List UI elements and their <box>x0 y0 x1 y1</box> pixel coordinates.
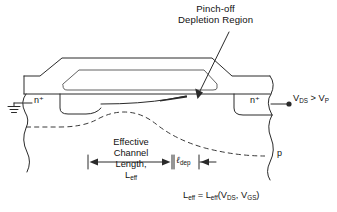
drain-bias-sub-p: P <box>325 97 329 104</box>
eq-rhs-sub2: GS <box>247 194 256 201</box>
eq-rhs-open: (V <box>218 190 227 200</box>
drain-bias-relation: > V <box>308 93 325 103</box>
drain-bias-sub-ds: DS <box>299 97 308 104</box>
eq-lhs-sub: eff <box>188 194 195 201</box>
gate-outer-outline <box>24 58 270 76</box>
depletion-length-label: ℓdep <box>176 155 190 166</box>
effective-label-line1: Effective <box>93 137 169 148</box>
substrate-region-label: p <box>277 148 282 159</box>
eq-rhs-sub: eff <box>211 194 218 201</box>
pinch-off-caption: Pinch-off Depletion Region <box>178 3 253 26</box>
right-cut-edge-upper <box>270 76 273 94</box>
pinch-off-pointer-line <box>199 32 229 93</box>
source-nplus-boundary <box>60 94 101 114</box>
effective-label-line3: Length, <box>93 159 169 170</box>
right-cut-edge-lower <box>268 115 274 180</box>
effective-label-line2: Channel <box>93 148 169 159</box>
figure-canvas: Pinch-off Depletion Region n⁺ n⁺ p VDS >… <box>0 0 337 212</box>
effective-label-eff: eff <box>130 174 137 181</box>
left-cut-edge-lower <box>23 94 30 172</box>
drain-region-label: n⁺ <box>250 95 260 106</box>
eq-rhs-comma: , V <box>236 190 247 200</box>
leff-equation: Leff = Leff(VDS, VGS) <box>183 190 259 201</box>
drain-bias-label: VDS > VP <box>293 93 329 104</box>
pinch-off-caption-line1: Pinch-off <box>178 3 253 14</box>
eq-operator: = L <box>195 190 211 200</box>
channel-pinch-point <box>160 96 187 102</box>
eq-rhs-close: ) <box>256 190 259 200</box>
depletion-length-sub: dep <box>180 159 191 166</box>
drain-terminal-dot <box>286 101 291 106</box>
eq-rhs-sub1: DS <box>227 194 236 201</box>
effective-label-line4: Leff <box>93 170 169 181</box>
pinch-off-caption-line2: Depletion Region <box>178 14 253 25</box>
source-region-label: n⁺ <box>34 95 44 106</box>
gate-inner-outline <box>63 70 217 90</box>
effective-channel-length-label: Effective Channel Length, Leff <box>93 137 169 181</box>
dim-arrowhead-ldep <box>201 159 210 166</box>
inversion-channel-layer <box>101 96 186 104</box>
